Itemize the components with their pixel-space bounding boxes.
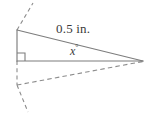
- lower-extension-ray: [17, 85, 28, 112]
- hypotenuse-length-label: 0.5 in.: [56, 21, 90, 37]
- angle-label: x°: [70, 43, 79, 59]
- right-angle-square-icon: [17, 53, 25, 61]
- lower-ray-to-apex: [17, 62, 143, 86]
- geometry-figure: 0.5 in. x°: [0, 0, 155, 115]
- degree-symbol: °: [75, 43, 78, 52]
- upper-extension-ray: [17, 3, 33, 30]
